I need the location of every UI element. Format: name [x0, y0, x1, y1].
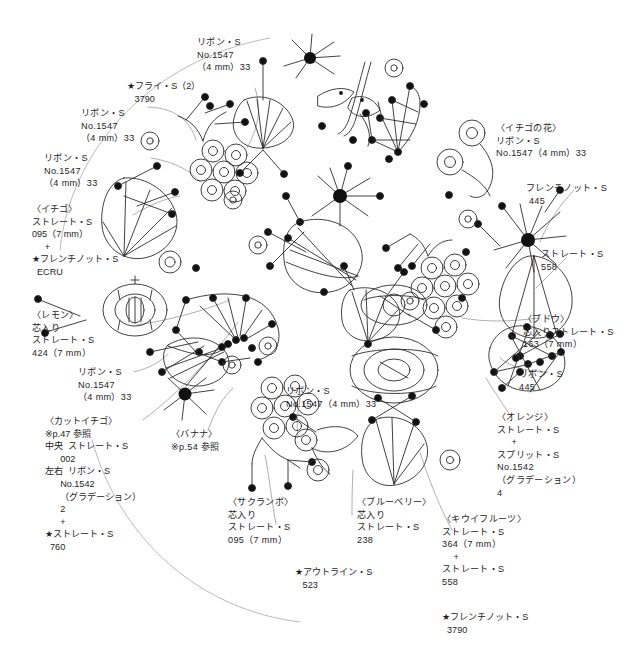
label-strawberry: 〈イチゴ〉 ストレート・S 095（7 mm） + ★フレンチノット・S ECR…: [32, 203, 118, 279]
pattern-sheet: リボン・S No.1547 （4 mm）33 ★フライ・S（2） 3790 リボ…: [0, 0, 624, 652]
label-blueberry: 〈ブルーベリー〉 芯入り ストレート・S 238: [357, 496, 432, 546]
motif-ring-medium-2: [437, 149, 463, 175]
label-ribbon-left-second: リボン・S No.1547 （4 mm）33: [44, 152, 98, 190]
motif-ring-small-12: [259, 337, 277, 355]
motif-ring-small-2: [141, 132, 159, 150]
label-lemon: 〈レモン〉 芯入り ストレート・S 424（7 mm）: [32, 309, 95, 359]
label-cut-strawberry: 〈カットイチゴ〉 ※p.47 参照 中央 ストレート・S 002 左右 リボン・…: [45, 415, 141, 554]
motif-leaf-fan-upper-right: [368, 86, 420, 152]
label-french-knot-445: フレンチノット・S 445: [526, 182, 607, 207]
motif-leaf-cluster-left: [176, 294, 279, 362]
label-ribbon-445: リボン・S 445: [519, 368, 563, 393]
label-straight-558: ストレート・S 558: [541, 248, 604, 273]
label-ribbon-upper-left: リボン・S No.1547 （4 mm）33: [81, 107, 135, 145]
motif-ring-medium-1: [459, 120, 485, 146]
label-fly-stitch: ★フライ・S（2） 3790: [127, 80, 200, 105]
motif-ring-small-3: [385, 59, 403, 77]
motif-starburst-center: [312, 166, 380, 226]
label-kiwifruit: 〈キウイフルーツ〉 ストレート・S 364（7 mm） + ストレート・S 55…: [442, 513, 526, 589]
motif-ring-small-8: [249, 236, 267, 254]
motif-lemon-slice: [103, 276, 167, 336]
motif-ring-small-1: [159, 251, 181, 273]
label-ribbon-top-center: リボン・S No.1547 （4 mm）33: [197, 36, 251, 74]
motif-ring-small-11: [224, 191, 242, 209]
motif-ring-small-7: [440, 450, 460, 470]
label-orange: 〈オレンジ〉 ストレート・S + スプリット・S No.1542 （グラデーショ…: [497, 411, 581, 499]
motif-starburst-top: [284, 34, 340, 78]
motif-blueberry-fan: [362, 417, 428, 485]
label-outline-stitch: ★アウトライン・S 523: [295, 566, 372, 591]
motif-ring-small-9: [401, 292, 419, 310]
label-ribbon-center: リボン・S No.1547（4 mm）33: [286, 385, 376, 410]
label-french-knot-3790: ★フレンチノット・S 3790: [442, 611, 528, 636]
label-banana: 〈バナナ〉 ※p.54 参照: [171, 428, 220, 453]
label-strawberry-flower: 〈イチゴの花〉 リボン・S No.1547（4 mm）33: [496, 122, 586, 160]
label-ribbon-mid-left: リボン・S No.1547 （4 mm）33: [78, 366, 132, 404]
label-cherry: 〈サクランボ〉 芯入り ストレート・S 095（7 mm）: [228, 496, 293, 546]
motif-ring-small-10: [459, 210, 477, 228]
label-grape: 〈ブドウ〉 芯入りストレート・S 163（7 mm）: [523, 313, 614, 351]
motif-starburst-lower-left: [164, 378, 214, 420]
motif-ring-small-4: [223, 356, 241, 374]
